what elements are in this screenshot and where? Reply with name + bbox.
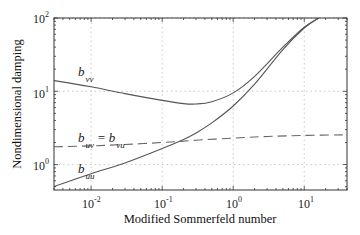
y-tick-label: 100 [33, 157, 49, 173]
x-tick-label: 10-2 [82, 195, 101, 211]
y-tick-label: 102 [33, 10, 49, 26]
y-tick-label: 101 [33, 85, 49, 101]
curve-b-uu [54, 18, 319, 187]
x-tick-label: 10-1 [154, 195, 173, 211]
x-tick-labels: 10-2 10-1 100 101 [82, 195, 314, 211]
chart: 10-2 10-1 100 101 100 101 102 Modified S… [0, 0, 360, 235]
curve-label-bvv: bvv [78, 64, 94, 84]
curve-label-buv-bvu: buv=bvu [78, 130, 125, 150]
x-tick-label: 101 [298, 195, 314, 211]
x-tick-label: 100 [226, 195, 242, 211]
y-tick-labels: 100 101 102 [33, 10, 49, 173]
curve-label-buu: buu [78, 161, 95, 181]
curves [54, 18, 347, 187]
x-axis-label: Modified Sommerfeld number [124, 212, 278, 226]
y-axis-label: Nondimensional damping [10, 39, 24, 169]
curve-b-vv [54, 18, 319, 104]
